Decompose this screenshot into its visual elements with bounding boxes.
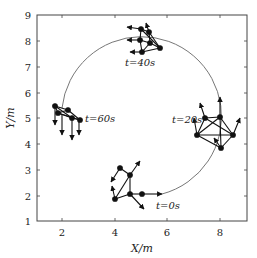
y-tick-labels: 1 2 3 4 5 6 7 8 9 (25, 10, 31, 227)
svg-text:4: 4 (25, 139, 31, 150)
formation-trajectory-chart: 2 4 6 8 1 2 3 4 5 6 7 8 9 X/m Y/m (0, 0, 257, 258)
formation-t40 (127, 23, 162, 54)
x-tick-labels: 2 4 6 8 (59, 227, 223, 238)
svg-text:8: 8 (25, 36, 31, 47)
formation-t60 (53, 104, 83, 140)
svg-text:5: 5 (25, 113, 31, 124)
x-axis-label: X/m (130, 242, 153, 255)
label-t60: t=60s (85, 113, 115, 124)
svg-text:2: 2 (59, 227, 65, 238)
svg-text:1: 1 (25, 216, 31, 227)
svg-text:9: 9 (25, 10, 31, 21)
svg-text:8: 8 (217, 227, 223, 238)
formation-t0 (111, 161, 162, 209)
svg-text:2: 2 (25, 191, 31, 202)
plot-frame (37, 15, 247, 221)
svg-text:3: 3 (25, 165, 31, 176)
svg-text:6: 6 (25, 88, 31, 99)
svg-text:6: 6 (164, 227, 170, 238)
label-t0: t=0s (156, 200, 180, 211)
svg-text:4: 4 (112, 227, 118, 238)
label-t20: t=20s (172, 114, 202, 125)
svg-text:7: 7 (25, 62, 31, 73)
label-t40: t=40s (125, 57, 155, 68)
y-axis-label: Y/m (4, 107, 17, 128)
